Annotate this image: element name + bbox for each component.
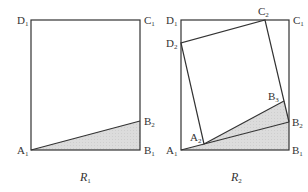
label-d1: D1 (17, 14, 29, 28)
label-c1: C1 (144, 14, 155, 28)
label-c1: C1 (293, 14, 304, 28)
label-b1: B1 (144, 144, 155, 158)
figure-r2: D1 C2 C1 D2 B3 B2 A2 A1 B1 R2 (166, 5, 304, 185)
label-a2: A2 (190, 131, 202, 145)
label-a1: A1 (17, 144, 29, 158)
label-b2: B2 (144, 115, 155, 129)
label-d2: D2 (166, 37, 178, 51)
label-b2: B2 (292, 116, 303, 130)
figure-r1: D1 C1 B2 A1 B1 R1 (17, 14, 155, 185)
caption-r1: R1 (79, 170, 91, 185)
label-c2: C2 (258, 5, 269, 19)
label-a1: A1 (166, 144, 178, 158)
label-b1: B1 (292, 144, 303, 158)
label-d1: D1 (166, 14, 178, 28)
caption-r2: R2 (230, 170, 242, 185)
label-b3: B3 (268, 90, 279, 104)
geometry-diagram: D1 C1 B2 A1 B1 R1 D1 C2 C1 D2 B3 B2 A2 A… (0, 0, 308, 192)
